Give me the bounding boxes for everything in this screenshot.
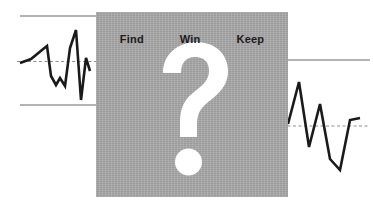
right-chart-panel — [282, 0, 373, 214]
card-label-row: Find Win Keep — [96, 31, 288, 47]
card-label-keep: Keep — [236, 34, 264, 45]
card-label-win: Win — [180, 34, 201, 45]
right-chart-svg — [282, 0, 373, 214]
question-mark-hook — [163, 42, 228, 137]
question-mark-glyph — [149, 40, 235, 180]
question-mark-dot — [175, 149, 202, 176]
center-card: Find Win Keep — [96, 12, 288, 197]
card-label-find: Find — [120, 34, 144, 45]
question-mark-icon — [96, 40, 288, 190]
left-chart-svg — [0, 0, 100, 214]
page-root: Find Win Keep — [0, 0, 373, 214]
left-chart-panel — [0, 0, 100, 214]
left-chart-line — [20, 30, 90, 100]
